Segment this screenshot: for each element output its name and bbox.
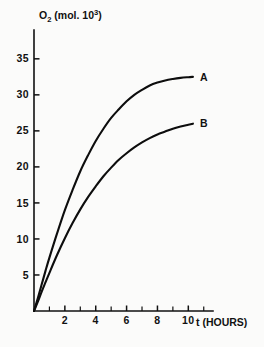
x-axis-tick-labels: 246810 <box>62 314 195 326</box>
y-tick-label-15: 15 <box>17 197 29 209</box>
x-axis-title: t (HOURS) <box>196 316 247 328</box>
x-tick-label-2: 2 <box>62 314 68 326</box>
x-tick-label-4: 4 <box>93 314 99 326</box>
series-label-A: A <box>200 71 208 83</box>
x-tick-label-8: 8 <box>154 314 160 326</box>
x-tick-label-10: 10 <box>182 314 194 326</box>
curve-B <box>34 124 193 311</box>
data-curves <box>34 77 193 311</box>
x-axis-ticks <box>49 306 203 312</box>
y-tick-label-20: 20 <box>17 160 29 172</box>
y-axis-tick-labels: 5101520253035 <box>17 52 29 280</box>
y-tick-label-10: 10 <box>17 233 29 245</box>
axes <box>34 30 213 311</box>
curve-A <box>34 77 193 311</box>
oxygen-evolution-chart: 5101520253035 246810 AB O2 (mol. 103) t … <box>0 0 264 347</box>
series-labels: AB <box>200 71 208 130</box>
y-axis-ticks <box>34 59 40 275</box>
y-tick-label-35: 35 <box>17 52 29 64</box>
y-axis-title: O2 (mol. 103) <box>39 8 102 24</box>
chart-canvas: 5101520253035 246810 AB O2 (mol. 103) t … <box>0 0 264 347</box>
y-tick-label-25: 25 <box>17 124 29 136</box>
x-tick-label-6: 6 <box>123 314 129 326</box>
y-tick-label-5: 5 <box>23 269 29 281</box>
y-tick-label-30: 30 <box>17 88 29 100</box>
series-label-B: B <box>200 117 208 129</box>
